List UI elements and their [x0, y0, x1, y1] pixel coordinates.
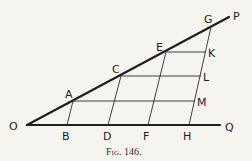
- label-H: H: [183, 130, 191, 143]
- label-O: O: [9, 120, 18, 133]
- label-E: E: [156, 41, 163, 54]
- label-Q: Q: [225, 121, 234, 134]
- diagram-canvas: O P Q A C E G B D F H K L M Fig. 146.: [0, 0, 252, 161]
- label-M: M: [197, 96, 207, 109]
- line-CD: [108, 76, 121, 125]
- line-EF: [148, 52, 166, 125]
- label-A: A: [65, 88, 73, 101]
- label-B: B: [62, 130, 70, 143]
- figure-caption: Fig. 146.: [106, 146, 141, 157]
- thin-lines: [67, 27, 211, 125]
- line-AB: [67, 101, 73, 125]
- label-L: L: [203, 71, 210, 84]
- label-P: P: [233, 10, 240, 23]
- label-K: K: [208, 47, 216, 60]
- label-C: C: [112, 63, 120, 76]
- label-F: F: [143, 130, 149, 143]
- label-G: G: [204, 13, 213, 26]
- label-D: D: [103, 130, 111, 143]
